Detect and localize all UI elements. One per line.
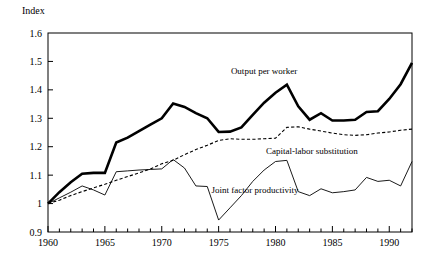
y-axis-tick-label: 1 [37, 198, 42, 209]
index-line-chart: Index0.911.11.21.31.41.51.61960196519701… [0, 0, 432, 257]
y-axis-tick-label: 0.9 [30, 227, 43, 238]
y-axis-tick-label: 1.2 [30, 141, 43, 152]
x-axis-tick-label: 1990 [379, 237, 399, 248]
series-line-output-per-worker [48, 63, 412, 204]
chart-container: Index0.911.11.21.31.41.51.61960196519701… [0, 0, 432, 257]
y-axis-tick-label: 1.6 [30, 28, 43, 39]
y-axis-tick-label: 1.3 [30, 113, 43, 124]
x-axis-tick-label: 1970 [152, 237, 172, 248]
series-label-capital-labor-substitution: Capital-labor substitution [266, 146, 358, 156]
x-axis-tick-label: 1960 [38, 237, 58, 248]
series-label-joint-factor-productivity: Joint factor productivity [212, 185, 299, 195]
y-axis-tick-label: 1.1 [30, 170, 43, 181]
y-axis-tick-label: 1.4 [30, 84, 43, 95]
y-axis-tick-label: 1.5 [30, 56, 43, 67]
x-axis-tick-label: 1980 [266, 237, 286, 248]
x-axis-tick-label: 1975 [209, 237, 229, 248]
x-axis-tick-label: 1965 [95, 237, 115, 248]
series-label-output-per-worker: Output per worker [231, 66, 297, 76]
x-axis-tick-label: 1985 [322, 237, 342, 248]
y-axis-title: Index [22, 5, 45, 16]
